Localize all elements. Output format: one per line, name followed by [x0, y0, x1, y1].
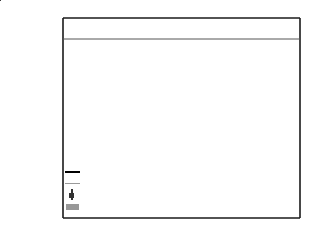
axis-frame	[63, 18, 300, 218]
errorbar-marker-icon	[64, 189, 81, 200]
gray-line-icon	[64, 178, 81, 189]
black-line-icon	[64, 166, 81, 177]
legend-item-steady-rate	[64, 178, 84, 189]
legend-item-trend	[64, 166, 84, 177]
chart-legend	[64, 166, 84, 212]
legend-item-global-average	[64, 201, 84, 212]
chart-figure	[0, 0, 314, 248]
gray-band-icon	[64, 201, 81, 212]
legend-item-pentadal-averages	[64, 189, 84, 200]
plot-canvas	[0, 0, 314, 248]
